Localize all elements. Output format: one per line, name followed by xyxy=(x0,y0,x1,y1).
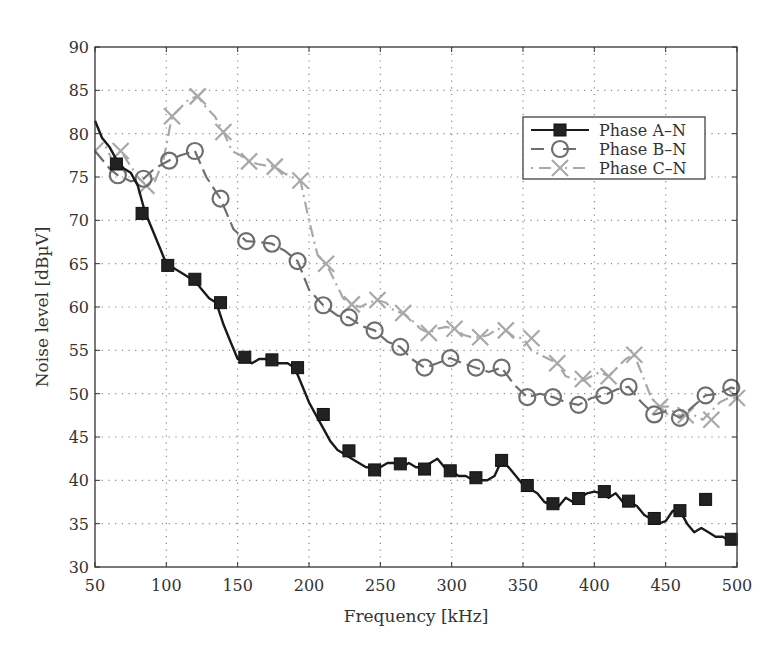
y-tick-label: 40 xyxy=(69,471,89,490)
series-phase-a-n-marker xyxy=(394,458,406,470)
series-phase-c-n-marker xyxy=(626,347,642,363)
series-phase-a-n-marker xyxy=(317,408,329,420)
y-tick-label: 90 xyxy=(69,38,89,57)
y-tick-label: 60 xyxy=(69,298,89,317)
y-axis-title: Noise level [dBµV] xyxy=(32,227,52,388)
series-phase-b-n-marker xyxy=(596,387,612,403)
y-tick-label: 65 xyxy=(69,255,89,274)
series-phase-a-n-marker xyxy=(239,351,251,363)
series-phase-a-n-marker xyxy=(266,354,278,366)
series-phase-a-n-marker xyxy=(623,495,635,507)
y-tick-label: 85 xyxy=(69,81,89,100)
series-phase-c-n-marker xyxy=(703,412,719,428)
series-phase-a-n-marker xyxy=(215,297,227,309)
x-tick-label: 400 xyxy=(579,576,610,595)
series-phase-b-n-marker xyxy=(494,360,510,376)
series-phase-c-n-marker xyxy=(215,124,231,140)
y-tick-label: 50 xyxy=(69,385,89,404)
x-tick-label: 500 xyxy=(722,576,753,595)
series-phase-a-n-marker xyxy=(674,505,686,517)
series-phase-a-n-marker xyxy=(162,259,174,271)
x-tick-label: 450 xyxy=(650,576,681,595)
series-phase-c-n-marker xyxy=(498,322,514,338)
x-tick-label: 200 xyxy=(294,576,325,595)
series-phase-a-n-marker xyxy=(444,465,456,477)
x-tick-label: 50 xyxy=(85,576,105,595)
series-phase-c-n-marker xyxy=(164,108,180,124)
x-tick-label: 300 xyxy=(436,576,467,595)
series-phase-c-n-marker xyxy=(601,368,617,384)
series-phase-a-n xyxy=(95,121,737,546)
legend-label: Phase A–N xyxy=(599,121,686,140)
series-phase-c-n-marker xyxy=(395,305,411,321)
series-phase-c-n-marker xyxy=(524,330,540,346)
series-phase-a-n-marker xyxy=(725,533,737,545)
series-phase-c-n-marker xyxy=(447,321,463,337)
series-phase-a-n-marker xyxy=(136,207,148,219)
y-tick-label: 30 xyxy=(69,558,89,577)
series-phase-c-n-marker xyxy=(267,159,283,175)
x-tick-label: 100 xyxy=(151,576,182,595)
series-phase-a-n-marker xyxy=(700,493,712,505)
series-phase-a-n-marker xyxy=(496,454,508,466)
y-tick-labels: 30354045505560657075808590 xyxy=(69,38,89,577)
series-phase-a-n-marker xyxy=(369,464,381,476)
series-phase-a-n-marker xyxy=(521,480,533,492)
series-phase-c-n-marker xyxy=(241,153,257,169)
series-phase-c-n-marker xyxy=(369,292,385,308)
y-tick-label: 45 xyxy=(69,428,89,447)
series-phase-a-n-marker xyxy=(547,498,559,510)
series-phase-c-n-marker xyxy=(190,88,206,104)
series-phase-a-n-line xyxy=(95,121,737,541)
series-phase-c-n-marker xyxy=(472,329,488,345)
x-tick-label: 250 xyxy=(365,576,396,595)
legend: Phase A–NPhase B–NPhase C–N xyxy=(523,117,705,179)
series-phase-c-n-marker xyxy=(549,355,565,371)
legend-label: Phase B–N xyxy=(599,140,686,159)
series-phase-a-n-marker xyxy=(573,493,585,505)
series-phase-c-n-marker xyxy=(318,256,334,272)
x-axis-title: Frequency [kHz] xyxy=(344,606,489,626)
legend-marker xyxy=(554,124,566,136)
x-tick-labels: 50100150200250300350400450500 xyxy=(85,576,752,595)
series-phase-a-n-marker xyxy=(292,362,304,374)
y-tick-label: 55 xyxy=(69,341,89,360)
series-phase-c-n-marker xyxy=(421,325,437,341)
noise-level-chart: 50100150200250300350400450500 3035404550… xyxy=(0,0,782,652)
series-phase-a-n-marker xyxy=(419,463,431,475)
series-phase-b-n-marker xyxy=(417,360,433,376)
x-tick-label: 150 xyxy=(222,576,253,595)
series-phase-a-n-marker xyxy=(470,472,482,484)
series-phase-a-n-marker xyxy=(598,486,610,498)
y-tick-label: 35 xyxy=(69,515,89,534)
series-phase-b-n-marker xyxy=(187,143,203,159)
series-phase-b-n-marker xyxy=(213,191,229,207)
y-tick-label: 75 xyxy=(69,168,89,187)
series-phase-a-n-marker xyxy=(189,273,201,285)
y-tick-label: 80 xyxy=(69,125,89,144)
series-phase-a-n-marker xyxy=(110,158,122,170)
series-phase-a-n-marker xyxy=(648,512,660,524)
series-phase-a-n-marker xyxy=(343,445,355,457)
legend-label: Phase C–N xyxy=(599,159,687,178)
series-phase-c-n-marker xyxy=(292,172,308,188)
x-tick-label: 350 xyxy=(508,576,539,595)
series-phase-b-n-marker xyxy=(519,389,535,405)
y-tick-label: 70 xyxy=(69,211,89,230)
